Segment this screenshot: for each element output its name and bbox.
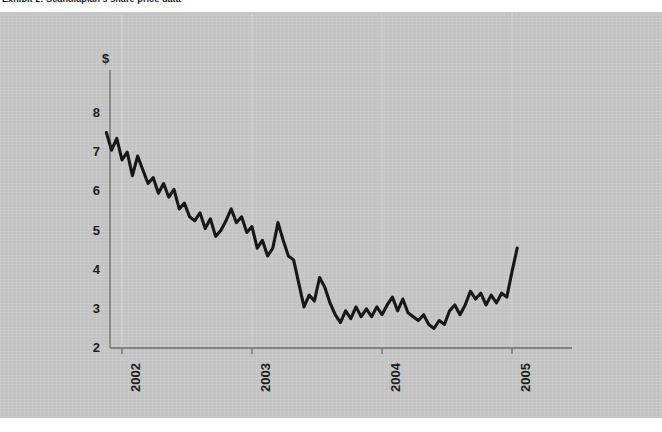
y-axis-tick-5: 5 (84, 223, 100, 238)
y-axis-tick-4: 4 (84, 262, 100, 277)
y-axis-tick-3: 3 (84, 301, 100, 316)
price-line (106, 133, 517, 329)
x-axis-tick-2004: 2004 (388, 363, 403, 392)
y-axis-tick-8: 8 (84, 105, 100, 120)
y-axis-tick-6: 6 (84, 183, 100, 198)
y-axis-tick-2: 2 (84, 340, 100, 355)
line-chart (0, 0, 662, 432)
x-axis-tick-2002: 2002 (128, 363, 143, 392)
gridlines (122, 14, 512, 348)
x-axis-tick-2005: 2005 (518, 363, 533, 392)
y-axis-tick-7: 7 (84, 144, 100, 159)
figure: Exhibit 2: Scandiaplan's share price dat… (0, 0, 662, 432)
x-axis-tick-2003: 2003 (258, 363, 273, 392)
y-axis-currency-label: $ (102, 51, 109, 66)
tick-marks (122, 348, 512, 354)
